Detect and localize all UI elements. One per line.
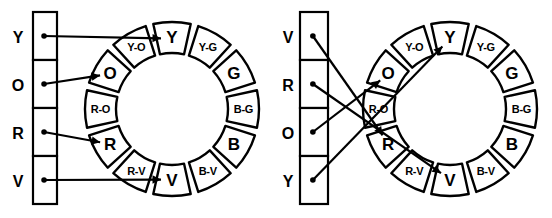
color-wheel: YY-GGB-GBB-VVR-VRR-OOY-O	[363, 22, 537, 196]
wheel-segment-label: R-V	[405, 165, 424, 177]
wheel-segment-label: Y-G	[477, 41, 495, 53]
wheel-segment-label: Y-O	[405, 41, 424, 53]
color-list-column: VROY	[282, 12, 328, 204]
wheel-segment-label: G	[227, 64, 240, 83]
wheel-segment-label: O	[381, 64, 394, 83]
scrambled-column-panel: VROYYY-GGB-GBB-VVR-VRR-OOY-O	[282, 12, 537, 204]
connector-origin-dot	[41, 33, 47, 39]
wheel-segment-label: G	[505, 64, 518, 83]
column-cell-label: R	[12, 125, 24, 142]
wheel-segment-label: V	[166, 171, 178, 190]
connector-origin-dot	[41, 129, 47, 135]
column-cell-label: O	[12, 77, 24, 94]
connector-origin-dot	[310, 33, 316, 39]
color-list-column: YORV	[12, 12, 57, 204]
wheel-segment-label: R	[104, 135, 116, 154]
column-cell-label: V	[283, 29, 294, 46]
wheel-segment-label: B	[506, 135, 518, 154]
wheel-segment-label: R-V	[127, 165, 146, 177]
column-cell-label: Y	[283, 173, 294, 190]
column-cell-label: O	[282, 125, 294, 142]
wheel-segment-label: Y	[166, 28, 178, 47]
connector-origin-dot	[310, 177, 316, 183]
wheel-segment-label: Y-G	[199, 41, 217, 53]
column-cell-label: V	[13, 173, 24, 190]
connector-origin-dot	[310, 81, 316, 87]
connector-origin-dot	[41, 81, 47, 87]
wheel-segment-label: R-O	[91, 103, 111, 115]
wheel-segment-label: O	[103, 64, 116, 83]
color-wheel-figure: YORVYY-GGB-GBB-VVR-VRR-OOY-OVROYYY-GGB-G…	[0, 0, 552, 218]
column-cell-label: Y	[13, 29, 24, 46]
wheel-segment-label: B	[228, 135, 240, 154]
connector-origin-dot	[310, 129, 316, 135]
figure-canvas: YORVYY-GGB-GBB-VVR-VRR-OOY-OVROYYY-GGB-G…	[0, 0, 552, 218]
wheel-segment-label: Y-O	[127, 41, 146, 53]
wheel-segment-label: B-G	[234, 103, 253, 115]
wheel-segment-label: V	[444, 171, 456, 190]
connector-origin-dot	[41, 177, 47, 183]
color-wheel: YY-GGB-GBB-VVR-VRR-OOY-O	[85, 22, 259, 196]
wheel-segment-label: B-V	[199, 165, 218, 177]
wheel-segment-label: B-V	[477, 165, 496, 177]
wheel-segment-label: Y	[444, 28, 456, 47]
column-cell-label: R	[282, 77, 294, 94]
wheel-segment-label: B-G	[512, 103, 531, 115]
ordered-column-panel: YORVYY-GGB-GBB-VVR-VRR-OOY-O	[12, 12, 259, 204]
